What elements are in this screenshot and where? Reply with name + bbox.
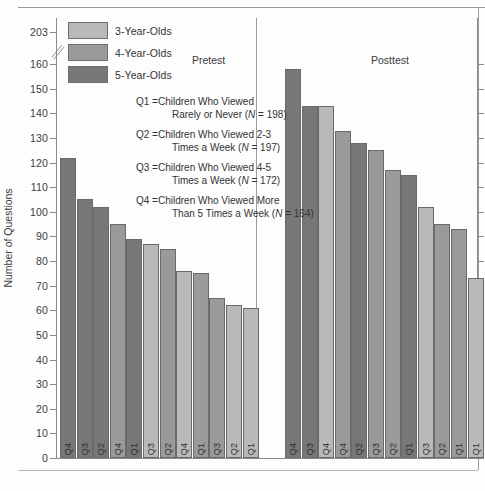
y-tick-mark (50, 89, 56, 90)
bar-pretest-2: Q3 (77, 199, 93, 458)
right-tick-mark (477, 138, 484, 139)
y-tick-mark (50, 187, 56, 188)
bar-label: Q2 (354, 443, 364, 456)
legend-swatch-age5 (68, 66, 108, 83)
y-tick-mark (50, 64, 56, 65)
y-tick-label: 10 (36, 427, 48, 439)
bar-label: Q2 (229, 443, 239, 456)
question-key: Q2 = (136, 129, 158, 154)
question-definition-1: Q1 = Children Who ViewedRarely or Never … (136, 96, 346, 121)
legend-swatch-age3 (68, 22, 108, 39)
y-tick-label: 90 (36, 230, 48, 242)
legend-swatch-age4 (68, 44, 108, 61)
y-tick-label: 20 (36, 403, 48, 415)
y-tick-label: 130 (30, 132, 48, 144)
figure-container: 0102030405060708090100110120130140150160… (0, 0, 485, 491)
question-definition-2: Q2 = Children Who Viewed 2-3Times a Week… (136, 129, 346, 154)
bar-label: Q3 (305, 443, 315, 456)
y-tick-label: 120 (30, 157, 48, 169)
bar-pretest-10: Q3 (209, 298, 225, 458)
legend: 3-Year-Olds4-Year-Olds5-Year-Olds (68, 22, 238, 88)
y-tick-label: 40 (36, 354, 48, 366)
question-definitions: Q1 = Children Who ViewedRarely or Never … (136, 96, 346, 228)
bar-posttest-10: Q2 (434, 224, 450, 458)
bar-label: Q4 (179, 443, 189, 456)
y-tick-mark (50, 163, 56, 164)
bar-pretest-8: Q4 (176, 271, 192, 458)
bar-label: Q1 (129, 443, 139, 456)
right-tick-mark (477, 236, 484, 237)
bar-label: Q3 (80, 443, 90, 456)
question-definition-4: Q4 = Children Who Viewed MoreThan 5 Time… (136, 195, 346, 220)
posttest-panel-title: Posttest (371, 54, 409, 66)
bar-pretest-5: Q1 (126, 239, 142, 458)
question-text: Children Who Viewed MoreThan 5 Times a W… (158, 195, 346, 220)
x-axis-baseline (56, 458, 478, 459)
right-tick-mark (477, 212, 484, 213)
bar-label: Q2 (437, 443, 447, 456)
bar-label: Q4 (288, 443, 298, 456)
y-tick-label: 100 (30, 206, 48, 218)
question-key: Q1 = (136, 96, 158, 121)
bar-label: Q4 (338, 443, 348, 456)
y-tick-mark (50, 113, 56, 114)
bar-posttest-9: Q3 (418, 207, 434, 458)
y-tick-label: 30 (36, 378, 48, 390)
question-definition-3: Q3 = Children Who Viewed 4-5Times a Week… (136, 162, 346, 187)
y-tick-mark (50, 138, 56, 139)
y-tick-label: 203 (30, 26, 48, 38)
right-tick-mark (477, 64, 484, 65)
y-tick-label: 60 (36, 304, 48, 316)
bar-label: Q4 (63, 443, 73, 456)
y-tick-label: 80 (36, 255, 48, 267)
bar-label: Q1 (471, 443, 481, 456)
right-tick-mark (477, 187, 484, 188)
bar-pretest-6: Q3 (143, 244, 159, 458)
bar-posttest-12: Q1 (468, 278, 484, 458)
bar-label: Q3 (371, 443, 381, 456)
bar-pretest-11: Q2 (226, 305, 242, 458)
y-tick-mark (50, 32, 56, 33)
plot-area: 0102030405060708090100110120130140150160… (56, 18, 478, 458)
frame-bottom-border (18, 470, 478, 471)
question-key: Q4 = (136, 195, 158, 220)
bar-pretest-7: Q2 (160, 249, 176, 458)
bar-label: Q3 (212, 443, 222, 456)
legend-item-age4: 4-Year-Olds (68, 44, 238, 61)
bar-pretest-4: Q4 (110, 224, 126, 458)
bar-posttest-11: Q1 (451, 229, 467, 458)
y-tick-mark (50, 360, 56, 361)
y-tick-mark (50, 409, 56, 410)
bar-pretest-1: Q4 (60, 158, 76, 458)
right-tick-mark (477, 163, 484, 164)
bar-label: Q4 (113, 443, 123, 456)
y-tick-mark (50, 384, 56, 385)
legend-item-age3: 3-Year-Olds (68, 22, 238, 39)
question-text: Children Who Viewed 4-5Times a Week (N =… (158, 162, 346, 187)
y-tick-label: 70 (36, 280, 48, 292)
question-key: Q3 = (136, 162, 158, 187)
frame-top-border (18, 7, 485, 8)
legend-label: 5-Year-Olds (115, 69, 172, 81)
right-tick-mark (477, 458, 484, 459)
y-tick-mark (50, 261, 56, 262)
question-text: Children Who ViewedRarely or Never (N = … (158, 96, 346, 121)
y-tick-label: 150 (30, 83, 48, 95)
bar-label: Q1 (246, 443, 256, 456)
bar-pretest-3: Q2 (93, 207, 109, 458)
y-tick-mark (50, 433, 56, 434)
y-tick-mark (50, 286, 56, 287)
bar-label: Q3 (146, 443, 156, 456)
y-tick-label: 160 (30, 58, 48, 70)
right-tick-mark (477, 89, 484, 90)
y-tick-label: 0 (42, 452, 48, 464)
y-tick-mark (50, 335, 56, 336)
bar-label: Q1 (454, 443, 464, 456)
bar-posttest-7: Q2 (385, 170, 401, 458)
y-axis-line (56, 18, 57, 458)
y-tick-label: 140 (30, 107, 48, 119)
y-tick-mark (50, 236, 56, 237)
axis-break-marker (51, 42, 65, 62)
question-text: Children Who Viewed 2-3Times a Week (N =… (158, 129, 346, 154)
bar-posttest-8: Q1 (401, 175, 417, 458)
